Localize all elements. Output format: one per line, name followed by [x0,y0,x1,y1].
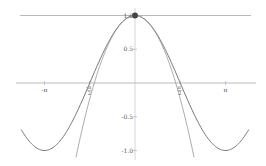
x-tick-label-denominator: 2 [88,90,91,96]
y-tick-label: 1.0 [123,12,133,19]
taylor-plot: -π-π2π2π1.00.5-0.5-1.0 [0,0,266,166]
curves [20,13,251,158]
y-tick-label: 0.5 [123,45,133,52]
plot-canvas: -π-π2π2π1.00.5-0.5-1.0 [0,0,266,166]
x-tick-label-denominator: 2 [178,90,181,96]
x-tick-label: π [224,86,228,93]
x-tick-label: -π [42,86,48,93]
y-tick-label: -0.5 [121,113,133,120]
y-tick-label: -1.0 [121,147,133,154]
tick-labels: -π-π2π2π1.00.5-0.5-1.0 [42,12,228,154]
axes [16,8,256,160]
